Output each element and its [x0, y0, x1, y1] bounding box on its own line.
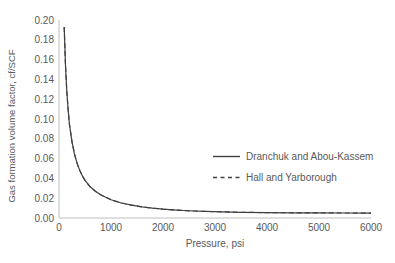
x-tick-label: 0 [56, 222, 62, 233]
y-tick-label: 0.18 [35, 34, 55, 45]
x-tick-label: 4000 [256, 222, 279, 233]
y-tick-label: 0.08 [35, 133, 55, 144]
y-tick-label: 0.20 [35, 15, 55, 26]
x-tick-label: 6000 [360, 222, 383, 233]
legend: Dranchuk and Abou-Kassem Hall and Yarbor… [213, 149, 373, 191]
y-tick-label: 0.06 [35, 153, 55, 164]
y-tick-label: 0.04 [35, 173, 55, 184]
solid-line-swatch [213, 154, 240, 159]
x-tick-label: 5000 [308, 222, 331, 233]
x-tick-label: 1000 [100, 222, 123, 233]
dashed-line-swatch [213, 175, 240, 180]
legend-item-dranchuk: Dranchuk and Abou-Kassem [213, 149, 373, 163]
y-tick-label: 0.12 [35, 94, 55, 105]
gas-fvf-chart: Gas formation volume factor, cf/SCF 0.00… [0, 0, 395, 263]
y-tick-label: 0.10 [35, 114, 55, 125]
y-tick-label: 0.14 [35, 74, 55, 85]
y-tick-label: 0.00 [35, 213, 55, 224]
x-tick-label: 3000 [204, 222, 227, 233]
x-tick-label: 2000 [152, 222, 175, 233]
x-axis-title: Pressure, psi [59, 238, 371, 249]
plot-svg: 0.000.020.040.060.080.100.120.140.160.18… [0, 0, 395, 263]
legend-label-hall: Hall and Yarborough [246, 172, 337, 183]
y-tick-label: 0.16 [35, 54, 55, 65]
legend-item-hall: Hall and Yarborough [213, 170, 373, 184]
y-tick-label: 0.02 [35, 193, 55, 204]
legend-label-dranchuk: Dranchuk and Abou-Kassem [246, 151, 373, 162]
